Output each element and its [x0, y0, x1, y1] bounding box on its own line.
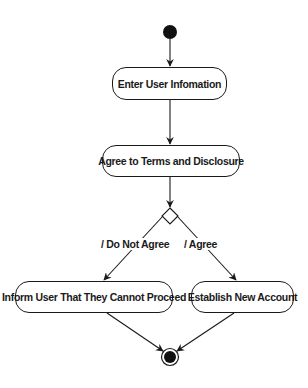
final-node [162, 349, 179, 366]
activity-label: Inform User That They Cannot Proceed [2, 291, 186, 303]
diagram-canvas [0, 0, 308, 388]
activity-label: Agree to Terms and Disclosure [98, 155, 244, 167]
edge-establish-account-to-final [177, 313, 234, 351]
edge-inform-user-to-final [107, 313, 163, 351]
decision-node [162, 208, 178, 224]
guard-do-not-agree: / Do Not Agree [101, 238, 169, 250]
activity-enter-user-information: Enter User Infomation [112, 67, 227, 100]
activity-label: Establish New Account [188, 291, 297, 303]
activity-label: Enter User Infomation [118, 78, 221, 90]
initial-node [163, 25, 177, 39]
activity-inform-user: Inform User That They Cannot Proceed [15, 281, 173, 313]
activity-establish-new-account: Establish New Account [191, 281, 294, 313]
guard-agree: / Agree [184, 238, 217, 250]
activity-agree-to-terms: Agree to Terms and Disclosure [102, 145, 240, 177]
